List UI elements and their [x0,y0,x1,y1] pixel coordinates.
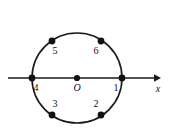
point-4-label: 4 [34,82,39,93]
x-axis-label: x [155,83,161,94]
point-1-label: 1 [114,82,119,93]
point-5-marker [49,38,56,45]
point-2-label: 2 [94,98,99,109]
circle-diagram: x O 1 2 3 4 5 6 [0,0,173,130]
point-3-label: 3 [53,98,58,109]
point-4-marker [29,75,36,82]
point-3-marker [49,112,56,119]
point-5-label: 5 [53,45,58,56]
figure-container: x O 1 2 3 4 5 6 [0,0,173,130]
origin-point [74,75,80,81]
point-1-marker [119,75,126,82]
x-axis-arrowhead [154,74,161,82]
point-2-marker [98,112,105,119]
point-6-marker [98,38,105,45]
point-6-label: 6 [94,45,99,56]
origin-label: O [73,82,80,93]
